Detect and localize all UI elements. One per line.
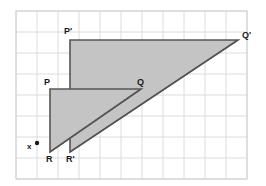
center-of-dilation-dot	[35, 141, 39, 145]
vertex-label-p-prime: P'	[64, 26, 72, 36]
vertex-label-p: P	[44, 77, 50, 87]
vertex-label-r-prime: R'	[66, 154, 75, 164]
geometry-canvas: x P Q R P' Q' R'	[0, 0, 266, 186]
vertex-label-q: Q	[137, 77, 144, 87]
center-of-dilation-label: x	[27, 142, 32, 151]
dilation-figure: x P Q R P' Q' R'	[0, 0, 266, 186]
vertex-label-q-prime: Q'	[242, 30, 251, 40]
vertex-label-r: R	[46, 154, 53, 164]
